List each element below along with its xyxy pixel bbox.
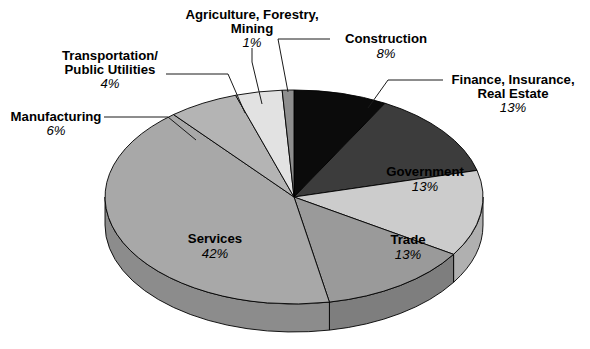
leader-line-construction (278, 39, 330, 92)
label-construction-line1: Construction (345, 31, 427, 46)
label-construction-percent: 8% (376, 46, 395, 61)
label-finance-line2: Real Estate (477, 86, 548, 101)
label-agriculture-percent: 1% (242, 35, 261, 50)
label-services-line1: Services (188, 231, 242, 246)
label-agriculture-forestry-mining: Agriculture, Forestry, Mining 1% (185, 7, 318, 50)
pie-top-face (105, 90, 483, 304)
label-manufacturing-line1: Manufacturing (11, 109, 102, 124)
label-government-percent: 13% (412, 179, 439, 194)
label-construction: Construction 8% (345, 31, 427, 61)
label-trade: Trade 13% (390, 232, 425, 262)
label-finance-line1: Finance, Insurance, (451, 72, 574, 87)
label-finance-percent: 13% (500, 100, 527, 115)
pie-chart-figure: Agriculture, Forestry, Mining 1% Transpo… (0, 0, 590, 349)
label-government-line1: Government (386, 164, 464, 179)
label-manufacturing-percent: 6% (46, 123, 65, 138)
label-transportation-public-utilities: Transportation/ Public Utilities 4% (62, 48, 158, 91)
label-services-percent: 42% (202, 246, 229, 261)
label-agriculture-line2: Mining (231, 21, 273, 36)
pie-chart-svg: Agriculture, Forestry, Mining 1% Transpo… (0, 0, 590, 349)
label-transportation-line1: Transportation/ (62, 48, 158, 63)
label-finance-insurance-real-estate: Finance, Insurance, Real Estate 13% (451, 72, 574, 115)
label-manufacturing: Manufacturing 6% (11, 109, 102, 138)
label-agriculture-line1: Agriculture, Forestry, (185, 7, 318, 22)
label-trade-percent: 13% (395, 247, 422, 262)
label-transportation-line2: Public Utilities (65, 62, 156, 77)
label-trade-line1: Trade (390, 232, 425, 247)
label-transportation-percent: 4% (100, 76, 119, 91)
